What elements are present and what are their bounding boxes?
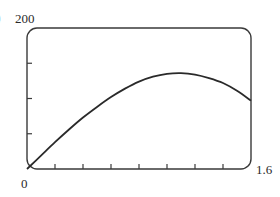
x-axis-ticks — [55, 164, 223, 169]
plot-frame — [27, 28, 251, 169]
data-curve — [27, 73, 251, 169]
y-axis-ticks — [27, 63, 32, 134]
line-chart — [0, 0, 280, 197]
